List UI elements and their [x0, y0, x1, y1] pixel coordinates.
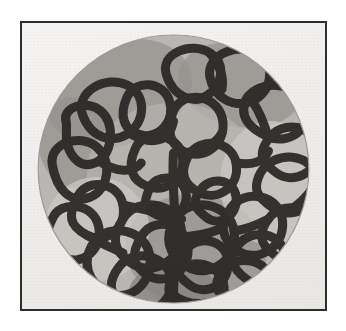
disc-group — [22, 23, 325, 309]
disc-grain — [22, 23, 325, 309]
abstract-line-drawing — [22, 23, 325, 309]
artwork-frame — [20, 21, 327, 311]
artwork-plate — [0, 0, 346, 331]
artwork-canvas — [22, 23, 325, 309]
